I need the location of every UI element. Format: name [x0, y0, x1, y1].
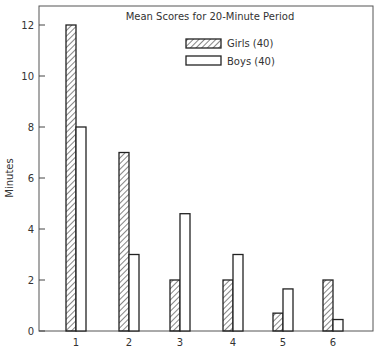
y-tick-label: 0 [28, 326, 34, 337]
bar-boys [180, 214, 190, 331]
legend-swatch-boys [186, 56, 221, 65]
legend-label-girls: Girls (40) [227, 38, 273, 49]
legend-label-boys: Boys (40) [227, 56, 275, 67]
bar-girls [170, 280, 180, 331]
y-tick-label: 10 [21, 71, 34, 82]
x-tick-label: 3 [177, 337, 183, 348]
legend: Girls (40) Boys (40) [186, 38, 275, 67]
y-tick-label: 2 [28, 275, 34, 286]
chart-title: Mean Scores for 20-Minute Period [126, 11, 295, 22]
bar-boys [76, 127, 86, 331]
bar-girls [66, 25, 76, 331]
x-tick-label: 6 [330, 337, 336, 348]
bar-boys [129, 255, 139, 332]
bar-girls [119, 153, 129, 332]
bar-boys [283, 289, 293, 331]
y-tick-label: 6 [28, 173, 34, 184]
bar-girls [323, 280, 333, 331]
bar-boys [233, 255, 243, 332]
bar-boys [333, 320, 343, 331]
bar-chart: 024681012 123456 Mean Scores for 20-Minu… [0, 0, 381, 353]
x-tick-label: 4 [230, 337, 236, 348]
y-tick-label: 12 [21, 20, 34, 31]
y-tick-label: 8 [28, 122, 34, 133]
x-tick-label: 1 [73, 337, 79, 348]
bar-girls [223, 280, 233, 331]
y-axis: 024681012 [21, 20, 45, 337]
legend-swatch-girls [186, 39, 221, 48]
bar-girls [273, 313, 283, 331]
y-tick-label: 4 [28, 224, 34, 235]
bars [66, 25, 343, 331]
y-axis-label: Minutes [4, 158, 15, 197]
x-tick-label: 2 [126, 337, 132, 348]
x-axis: 123456 [73, 337, 336, 348]
x-tick-label: 5 [280, 337, 286, 348]
